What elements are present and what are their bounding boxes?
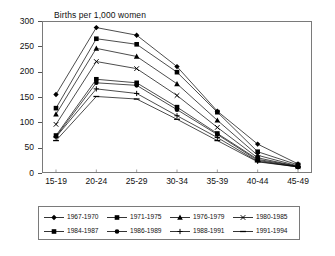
series-1971-1975: [54, 36, 301, 167]
data-point-marker-diamond: [51, 214, 56, 219]
x-axis-tick-label: 40-44: [236, 177, 280, 186]
legend-item-label: 1967-1970: [67, 214, 99, 221]
y-axis-tick-label: 200: [8, 67, 34, 76]
legend-item-1991-1994[interactable]: 1991-1994: [232, 227, 295, 236]
x-axis-tick-label: 30-34: [155, 177, 199, 186]
data-point-marker-square: [215, 110, 220, 115]
y-axis-tick-mark: [38, 72, 42, 73]
data-point-marker-triangle: [174, 81, 180, 86]
data-point-marker-square: [115, 215, 120, 220]
data-point-marker-cross: [54, 122, 59, 127]
legend-item-label: 1980-1985: [256, 214, 288, 221]
data-point-marker-circle: [94, 81, 99, 86]
legend-marker-diamond: [43, 213, 65, 222]
legend-item-1980-1985[interactable]: 1980-1985: [232, 213, 295, 222]
data-point-marker-square: [52, 229, 57, 234]
legend-item-1986-1989[interactable]: 1986-1989: [106, 227, 169, 236]
legend-row: 1984-19871986-19891988-19911991-1994: [43, 224, 295, 238]
x-axis-tick-label: 35-39: [195, 177, 239, 186]
legend-marker-square: [43, 227, 65, 236]
x-axis-tick-label: 25-29: [115, 177, 159, 186]
legend-item-1967-1970[interactable]: 1967-1970: [43, 213, 106, 222]
series-1986-1989: [54, 81, 301, 170]
data-point-marker-plus: [134, 91, 139, 96]
legend-row: 1967-19701971-19751976-19791980-1985: [43, 210, 295, 224]
legend-marker-circle: [106, 227, 128, 236]
legend-item-1976-1979[interactable]: 1976-1979: [169, 213, 232, 222]
legend-marker-triangle: [169, 213, 191, 222]
plot-series-layer: [42, 21, 312, 173]
data-point-marker-plus: [174, 113, 179, 118]
legend-item-1984-1987[interactable]: 1984-1987: [43, 227, 106, 236]
y-axis-tick-label: 150: [8, 93, 34, 102]
legend-item-label: 1991-1994: [256, 228, 288, 235]
y-axis-tick-label: 100: [8, 118, 34, 127]
legend-item-1988-1991[interactable]: 1988-1991: [169, 227, 232, 236]
chart-title: Births per 1,000 women: [54, 10, 146, 20]
data-point-marker-circle: [115, 229, 120, 234]
data-point-marker-circle: [134, 83, 139, 88]
x-axis-tick-marks: [56, 170, 298, 174]
y-axis-tick-mark: [38, 148, 42, 149]
x-axis-tick-label: 45-49: [276, 177, 320, 186]
legend-marker-cross: [232, 213, 254, 222]
fertility-rate-line-chart: Births per 1,000 women 05010015020025030…: [0, 0, 335, 256]
y-axis-tick-label: 300: [8, 17, 34, 26]
legend-marker-square: [106, 213, 128, 222]
data-point-marker-square: [175, 70, 180, 75]
data-point-marker-plus: [177, 228, 182, 233]
y-axis-tick-mark: [38, 46, 42, 47]
data-point-marker-cross: [175, 93, 180, 98]
data-point-marker-square: [94, 36, 99, 41]
y-axis-tick-label: 50: [8, 143, 34, 152]
data-point-marker-cross: [215, 125, 220, 130]
data-point-marker-square: [134, 42, 139, 47]
data-point-marker-diamond: [53, 92, 58, 97]
legend-item-label: 1988-1991: [193, 228, 225, 235]
data-point-marker-diamond: [94, 25, 99, 30]
data-point-marker-triangle: [94, 45, 100, 50]
legend-marker-dash: [232, 227, 254, 236]
y-axis-tick-mark: [38, 122, 42, 123]
y-axis-tick-label: 0: [8, 169, 34, 178]
legend-item-label: 1986-1989: [130, 228, 162, 235]
data-point-marker-triangle: [53, 111, 59, 116]
chart-legend: 1967-19701971-19751976-19791980-1985 198…: [38, 206, 300, 240]
legend-item-label: 1976-1979: [193, 214, 225, 221]
data-point-marker-circle: [175, 107, 180, 112]
y-axis-tick-mark: [38, 97, 42, 98]
data-point-marker-square: [54, 106, 59, 111]
legend-item-1971-1975[interactable]: 1971-1975: [106, 213, 169, 222]
legend-item-label: 1971-1975: [130, 214, 162, 221]
y-axis-tick-mark: [38, 173, 42, 174]
x-axis-tick-label: 15-19: [34, 177, 78, 186]
legend-marker-plus: [169, 227, 191, 236]
legend-item-label: 1984-1987: [67, 228, 99, 235]
x-axis-tick-label: 20-24: [74, 177, 118, 186]
y-axis-tick-label: 250: [8, 42, 34, 51]
y-axis-tick-mark: [38, 21, 42, 22]
